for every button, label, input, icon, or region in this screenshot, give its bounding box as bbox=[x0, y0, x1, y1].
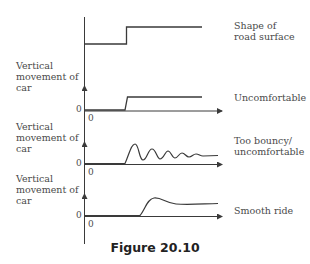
label-line: movement of bbox=[16, 184, 79, 195]
road-surface-curve bbox=[84, 27, 202, 44]
response-curve-smooth bbox=[84, 198, 218, 216]
y-label-uncomfortable: Vertical movement of car bbox=[16, 60, 79, 93]
label-line: road surface bbox=[234, 31, 295, 42]
label-line: Shape of bbox=[234, 20, 295, 31]
label-line: movement of bbox=[16, 132, 79, 143]
y-label-bouncy: Vertical movement of car bbox=[16, 121, 79, 154]
label-line: Smooth ride bbox=[234, 205, 293, 216]
response-curve-uncomfortable bbox=[84, 97, 202, 110]
label-line: Uncomfortable bbox=[234, 92, 306, 103]
response-curve-bouncy bbox=[84, 144, 218, 164]
label-smooth-ride: Smooth ride bbox=[234, 205, 293, 216]
label-road-surface: Shape of road surface bbox=[234, 20, 295, 42]
figure-caption: Figure 20.10 bbox=[0, 240, 310, 255]
origin-x-bouncy: 0 bbox=[88, 167, 94, 177]
label-line: uncomfortable bbox=[234, 146, 304, 157]
origin-y-smooth: 0 bbox=[76, 210, 82, 220]
origin-x-smooth: 0 bbox=[88, 219, 94, 229]
label-line: car bbox=[16, 143, 79, 154]
label-uncomfortable: Uncomfortable bbox=[234, 92, 306, 103]
label-line: Vertical bbox=[16, 173, 79, 184]
label-line: car bbox=[16, 195, 79, 206]
origin-y-bouncy: 0 bbox=[76, 158, 82, 168]
y-label-smooth: Vertical movement of car bbox=[16, 173, 79, 206]
label-line: Vertical bbox=[16, 60, 79, 71]
suspension-response-diagram: Shape of road surface Vertical movement … bbox=[0, 0, 310, 264]
label-line: Vertical bbox=[16, 121, 79, 132]
label-too-bouncy: Too bouncy/ uncomfortable bbox=[234, 135, 304, 157]
label-line: car bbox=[16, 82, 79, 93]
label-line: Too bouncy/ bbox=[234, 135, 304, 146]
origin-x-uncomfortable: 0 bbox=[88, 113, 94, 123]
origin-y-uncomfortable: 0 bbox=[76, 104, 82, 114]
label-line: movement of bbox=[16, 71, 79, 82]
